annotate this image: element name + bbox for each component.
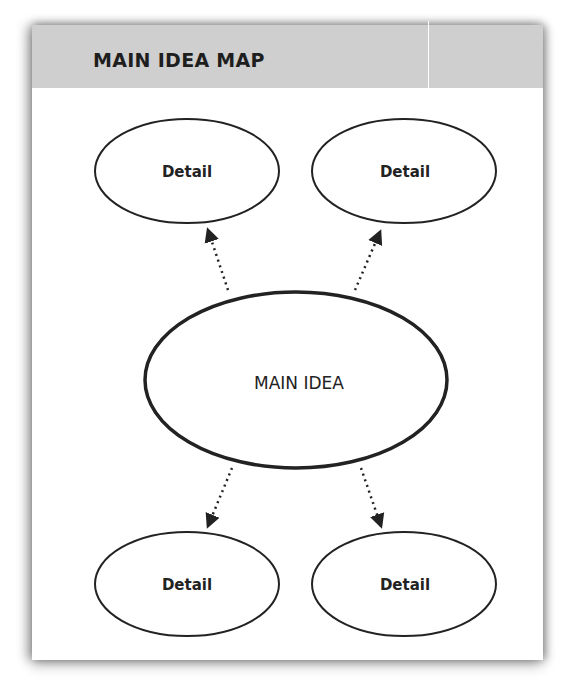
connector-bottom-right: [361, 468, 381, 526]
main-idea-label: MAIN IDEA: [254, 373, 344, 393]
detail-label-bottom-right: Detail: [380, 576, 430, 594]
diagram-canvas: [0, 0, 561, 687]
connector-bottom-left: [208, 468, 232, 526]
detail-label-top-right: Detail: [380, 163, 430, 181]
connector-top-left: [208, 230, 228, 290]
detail-label-bottom-left: Detail: [162, 576, 212, 594]
connector-top-right: [355, 232, 380, 290]
detail-label-top-left: Detail: [162, 163, 212, 181]
